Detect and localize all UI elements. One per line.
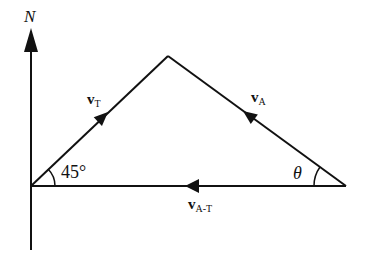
angle-right: θ — [293, 163, 320, 186]
vector-v-a: vA — [168, 56, 346, 186]
north-axis: N — [23, 7, 38, 250]
label-v-t: vT — [87, 91, 101, 109]
arrowhead-v-a-t-icon — [185, 179, 199, 193]
angle-right-label: θ — [293, 163, 302, 183]
vector-diagram: N vT vA vA-T 45° θ — [0, 0, 365, 268]
label-v-a-t: vA-T — [188, 196, 212, 214]
angle-origin-label: 45° — [61, 162, 86, 182]
label-v-a: vA — [251, 89, 267, 107]
vector-v-t: vT — [31, 56, 168, 186]
north-label: N — [23, 7, 37, 26]
vector-v-a-t: vA-T — [31, 179, 346, 214]
north-arrow-icon — [24, 28, 38, 52]
arrowhead-v-a-icon — [239, 106, 257, 124]
